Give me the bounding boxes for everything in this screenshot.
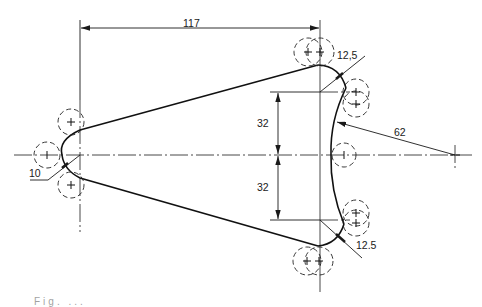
bottom-edge <box>80 178 318 246</box>
left-arc-r10 <box>61 130 80 178</box>
dimension-32-lower-label: 32 <box>257 182 269 193</box>
dimension-117-label: 117 <box>183 18 200 29</box>
radius-12-5-bottom-label: 12.5 <box>356 240 376 251</box>
radius-10-label: 10 <box>29 168 41 179</box>
dimension-32-upper-label: 32 <box>257 118 269 129</box>
figure-caption: Fig. ... <box>34 296 86 307</box>
construction-circles <box>34 38 369 275</box>
center-lines <box>14 20 472 292</box>
bottom-right-arc-r12-5 <box>318 224 344 246</box>
radius-62-label: 62 <box>394 127 406 138</box>
top-edge <box>80 65 318 130</box>
top-right-arc-r12-5 <box>318 65 346 88</box>
center-marks <box>47 48 460 265</box>
leader-r12-5-bottom-arrow <box>336 234 345 242</box>
radius-12-5-top-label: 12,5 <box>337 50 357 61</box>
